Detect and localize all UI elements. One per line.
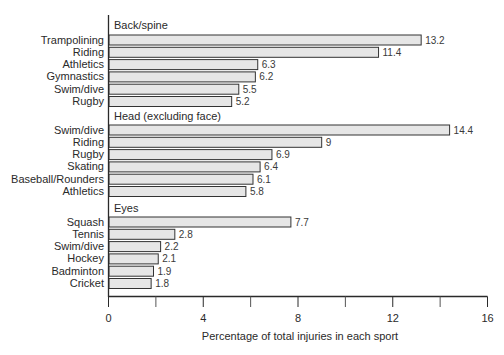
category-label: Athletics	[62, 185, 104, 197]
value-label: 14.4	[454, 125, 474, 136]
category-label: Rugby	[72, 95, 104, 107]
tick-label: 8	[295, 312, 301, 324]
category-label: Riding	[73, 46, 104, 58]
value-label: 1.9	[158, 266, 172, 277]
value-label: 2.2	[165, 241, 179, 252]
value-label: 2.8	[179, 229, 193, 240]
x-axis-ticks: 0481216	[105, 297, 493, 325]
bar	[109, 162, 260, 172]
group-title: Back/spine	[114, 19, 168, 31]
category-label: Baseball/Rounders	[11, 173, 104, 185]
value-label: 6.2	[259, 71, 273, 82]
tick-label: 12	[387, 312, 399, 324]
value-label: 6.4	[264, 161, 278, 172]
injury-bar-chart: Back/spineTrampolining13.2Riding11.4Athl…	[0, 0, 504, 355]
category-label: Squash	[67, 216, 104, 228]
category-label: Cricket	[70, 277, 104, 289]
group-title: Eyes	[114, 202, 139, 214]
bar	[109, 229, 175, 239]
bar	[109, 35, 421, 45]
category-label: Swim/dive	[54, 124, 104, 136]
value-label: 5.8	[250, 186, 264, 197]
category-label: Skating	[67, 160, 104, 172]
value-label: 5.5	[243, 84, 257, 95]
category-label: Badminton	[51, 265, 104, 277]
bar	[109, 174, 253, 184]
value-label: 9	[326, 137, 332, 148]
category-label: Riding	[73, 136, 104, 148]
bar	[109, 84, 239, 94]
value-label: 1.8	[155, 278, 169, 289]
bar	[109, 254, 158, 264]
value-label: 5.2	[236, 96, 250, 107]
value-label: 2.1	[162, 253, 176, 264]
bar	[109, 97, 232, 107]
bar	[109, 279, 151, 289]
category-label: Trampolining	[41, 34, 104, 46]
bar	[109, 72, 255, 82]
bar	[109, 47, 379, 57]
bar	[109, 187, 246, 197]
bar	[109, 150, 272, 160]
bar	[109, 242, 161, 252]
value-label: 13.2	[425, 35, 445, 46]
bar	[109, 60, 258, 70]
x-axis-label: Percentage of total injuries in each spo…	[202, 330, 398, 342]
bar	[109, 266, 154, 276]
bar	[109, 137, 322, 147]
value-label: 11.4	[383, 47, 402, 58]
bar	[109, 125, 450, 135]
category-label: Gymnastics	[47, 70, 105, 82]
category-label: Athletics	[62, 58, 104, 70]
category-label: Hockey	[67, 252, 104, 264]
bar	[109, 217, 291, 227]
group-head-excluding-face: Head (excluding face)Swim/dive14.4Riding…	[11, 110, 473, 197]
group-title: Head (excluding face)	[114, 110, 221, 122]
value-label: 6.9	[276, 149, 290, 160]
group-eyes: EyesSquash7.7Tennis2.8Swim/dive2.2Hockey…	[51, 202, 309, 289]
tick-label: 4	[200, 312, 206, 324]
category-label: Rugby	[72, 148, 104, 160]
category-label: Swim/dive	[54, 240, 104, 252]
category-label: Swim/dive	[54, 83, 104, 95]
tick-label: 0	[105, 312, 111, 324]
group-back-spine: Back/spineTrampolining13.2Riding11.4Athl…	[41, 19, 445, 107]
value-label: 6.1	[257, 174, 271, 185]
category-label: Tennis	[72, 228, 104, 240]
value-label: 7.7	[295, 217, 309, 228]
plot-area: Back/spineTrampolining13.2Riding11.4Athl…	[11, 19, 473, 289]
value-label: 6.3	[262, 59, 276, 70]
tick-label: 16	[481, 312, 493, 324]
